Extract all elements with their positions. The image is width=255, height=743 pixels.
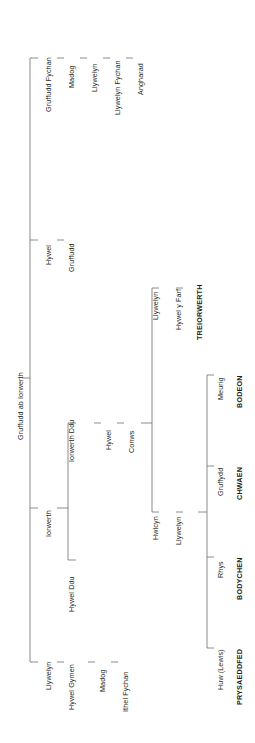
node-chwaen: CHWAEN [236,467,243,500]
node-llywelyn-3: Llywelyn [175,517,182,545]
node-bodeon: BODEON [236,375,243,408]
node-angharad: Angharad [137,63,144,95]
node-gruffudd-1: Gruffudd [68,243,75,272]
node-llywelyn-4: Llywelyn [45,662,52,690]
node-gruffudd-fychan: Gruffudd Fychan [45,57,52,112]
node-meurig: Meurig [217,377,224,400]
node-hywel-gymen: Hywel Gymen [68,664,75,710]
node-treiorwerth: TREIORWERTH [196,284,203,340]
node-root: Gruffudd ab Iorwerth [17,372,24,440]
node-gruffydd: Gruffydd [217,468,224,496]
node-llywelyn-fychan: Llywelyn Fychan [114,60,121,115]
node-llywelyn-1: Llywelyn [91,64,98,92]
node-bodychen: BODYCHEN [236,557,243,600]
family-tree-diagram: Gruffudd ab Iorwerth Gruffudd Fychan Mad… [0,0,255,743]
node-hywel-1: Hywel [45,245,52,265]
node-huw-lewis: Huw (Lewis) [217,649,224,690]
node-prysaeddfed: PRYSAEDDFED [236,649,243,705]
node-iorwerth-ddu: Iorwerth Ddu [68,420,75,462]
node-llywelyn-2: Llywelyn [152,292,159,320]
node-iorwerth: Iorwerth [45,510,52,537]
node-madog-2: Madog [99,670,106,692]
node-hywel-ddu: Hywel Ddu [68,576,75,612]
node-ithel-fychan: Ithel Fychan [122,672,129,712]
node-rhys: Rhys [217,561,224,578]
node-hywel-2: Hywel [105,430,112,450]
node-madog-1: Madog [68,66,75,88]
node-hwlcyn: Hwlcyn [152,516,159,540]
node-hywel-y-farf: Hywel y Farf [175,289,182,330]
node-conws: Conws [128,431,135,453]
connector-lines [0,0,255,743]
